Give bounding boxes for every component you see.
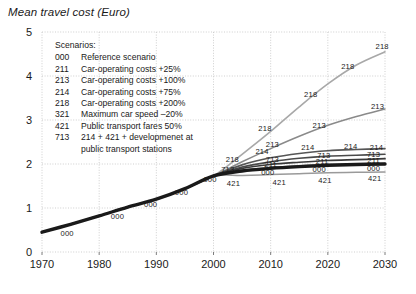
x-tick-label: 2030 bbox=[361, 258, 409, 270]
curve-tag-000: 000 bbox=[175, 188, 188, 197]
legend-heading: Scenarios: bbox=[55, 40, 193, 51]
chart-legend: Scenarios: 000Reference scenario211Car-o… bbox=[55, 40, 193, 155]
legend-item-label: Car-operating costs +200% bbox=[81, 98, 185, 109]
legend-item: 421Public transport fares 50% bbox=[55, 121, 193, 132]
y-tick-label: 1 bbox=[6, 202, 32, 214]
legend-item-label: Car-operating costs +25% bbox=[81, 64, 181, 75]
curve-tag-713: 713 bbox=[266, 155, 279, 164]
legend-item-code: 421 bbox=[55, 121, 81, 132]
curve-tag-421: 421 bbox=[318, 176, 331, 185]
legend-item: 211Car-operating costs +25% bbox=[55, 64, 193, 75]
curve-tag-713: 713 bbox=[317, 151, 330, 160]
curve-tag-214: 214 bbox=[344, 141, 357, 150]
legend-item: 321Maximum car speed –20% bbox=[55, 109, 193, 120]
curve-tag-218: 218 bbox=[226, 154, 239, 163]
legend-item-code: 713 bbox=[55, 132, 81, 143]
legend-items: 000Reference scenario211Car-operating co… bbox=[55, 52, 193, 143]
curve-tag-713: 713 bbox=[221, 165, 234, 174]
legend-item: 218Car-operating costs +200% bbox=[55, 98, 193, 109]
legend-item: 000Reference scenario bbox=[55, 52, 193, 63]
legend-item-code: 321 bbox=[55, 109, 81, 120]
curve-tag-000: 000 bbox=[367, 163, 380, 172]
x-tick-label: 1970 bbox=[18, 258, 66, 270]
curve-tag-214: 214 bbox=[301, 143, 314, 152]
curve-tag-218: 218 bbox=[304, 89, 317, 98]
legend-item: 214Car-operating costs +75% bbox=[55, 87, 193, 98]
curve-tag-218: 218 bbox=[258, 123, 271, 132]
y-tick-label: 3 bbox=[6, 114, 32, 126]
curve-tag-000: 000 bbox=[313, 165, 326, 174]
x-tick-label: 2010 bbox=[247, 258, 295, 270]
series-line-211 bbox=[42, 159, 385, 232]
y-tick-label: 5 bbox=[6, 26, 32, 38]
curve-tag-218: 218 bbox=[341, 62, 354, 71]
legend-item-label: Car-operating costs +75% bbox=[81, 87, 181, 98]
legend-item-code: 213 bbox=[55, 75, 81, 86]
curve-tag-000: 000 bbox=[61, 229, 74, 238]
legend-item-label: Maximum car speed –20% bbox=[81, 109, 183, 120]
curve-tag-421: 421 bbox=[368, 174, 381, 183]
legend-item: 713214 + 421 + developmenet at bbox=[55, 132, 193, 143]
y-tick-label: 4 bbox=[6, 70, 32, 82]
curve-tag-421: 421 bbox=[227, 179, 240, 188]
legend-item-code: 211 bbox=[55, 64, 81, 75]
x-tick-label: 1990 bbox=[132, 258, 180, 270]
curve-tag-000: 000 bbox=[111, 211, 124, 220]
x-tick-label: 2020 bbox=[304, 258, 352, 270]
legend-item-code: 218 bbox=[55, 98, 81, 109]
curve-tag-214: 214 bbox=[370, 143, 383, 152]
curve-tag-218: 218 bbox=[376, 42, 389, 51]
legend-continuation-line: public transport stations bbox=[55, 144, 193, 155]
legend-item-code: 000 bbox=[55, 52, 81, 63]
curve-tag-213: 213 bbox=[313, 120, 326, 129]
legend-item-label: Public transport fares 50% bbox=[81, 121, 182, 132]
curve-tag-213: 213 bbox=[371, 101, 384, 110]
legend-item-label: Reference scenario bbox=[81, 52, 156, 63]
x-tick-label: 1980 bbox=[75, 258, 123, 270]
chart-container: Mean travel cost (Euro) 012345 197019801… bbox=[0, 0, 416, 294]
curve-tag-000: 000 bbox=[203, 174, 216, 183]
curve-tag-000: 000 bbox=[261, 168, 274, 177]
curve-tag-213: 213 bbox=[266, 140, 279, 149]
y-tick-label: 0 bbox=[6, 246, 32, 258]
legend-item: 213Car-operating costs +100% bbox=[55, 75, 193, 86]
curve-tag-421: 421 bbox=[273, 177, 286, 186]
legend-item-label: 214 + 421 + developmenet at bbox=[81, 132, 193, 143]
legend-item-label: Car-operating costs +100% bbox=[81, 75, 185, 86]
legend-item-code: 214 bbox=[55, 87, 81, 98]
x-tick-label: 2000 bbox=[190, 258, 238, 270]
y-tick-label: 2 bbox=[6, 158, 32, 170]
curve-tag-000: 000 bbox=[144, 200, 157, 209]
